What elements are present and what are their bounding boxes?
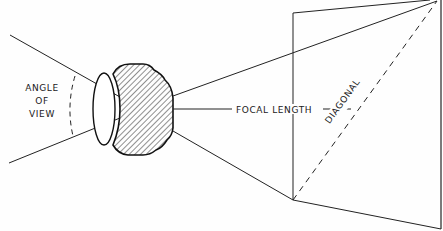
ray-upper-right <box>173 1 437 96</box>
ray-lower-right <box>173 131 293 200</box>
focal-length-label: FOCAL LENGTH <box>236 105 312 115</box>
film-plane-bottom-edge <box>293 200 441 229</box>
lens-barrel <box>113 64 173 155</box>
diagonal-label: DIAGONAL <box>323 77 362 125</box>
angle-of-view-arc <box>70 76 75 136</box>
lens-front-element <box>93 73 115 145</box>
angle-label-line2: OF <box>35 96 48 106</box>
diagonal-line <box>293 1 437 200</box>
diagram-canvas: FOCAL LENGTH DIAGONAL ANGLE OF VIEW <box>0 0 443 231</box>
lens-diagram: FOCAL LENGTH DIAGONAL ANGLE OF VIEW <box>0 0 443 231</box>
angle-label-line1: ANGLE <box>25 83 59 93</box>
angle-label-line3: VIEW <box>29 109 55 119</box>
